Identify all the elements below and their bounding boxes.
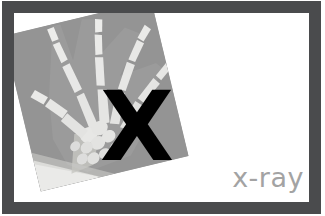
word-label: x-ray [210,162,304,193]
card-face: X x-ray [14,13,309,202]
letter-glyph: X [100,75,170,179]
flashcard-root: X x-ray [0,0,325,216]
